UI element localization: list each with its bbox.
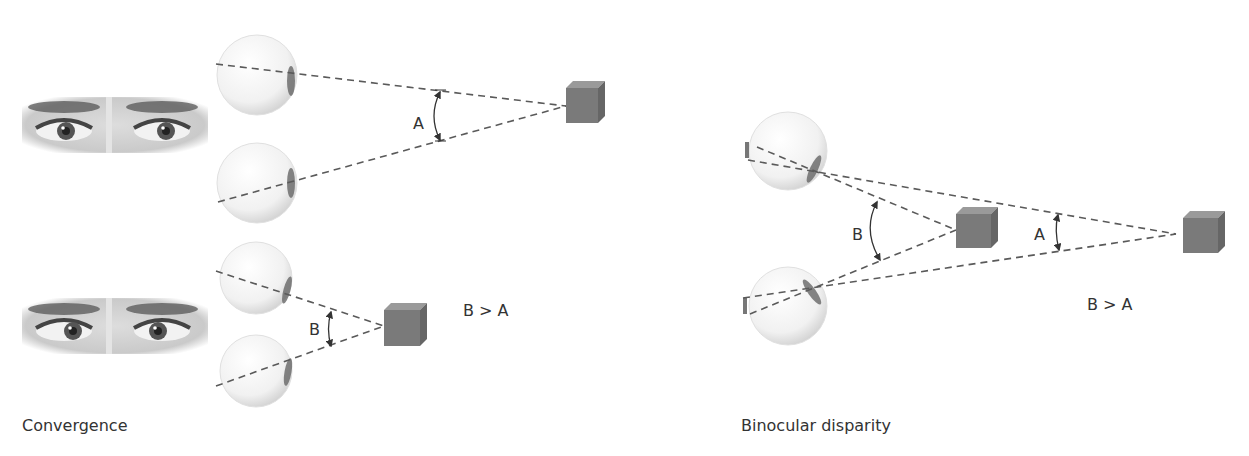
cube-near — [384, 303, 427, 346]
comparison-label-disparity: B > A — [1087, 295, 1133, 314]
face-eyes-photo-far — [22, 97, 208, 153]
angle-a-arc — [434, 92, 440, 140]
binocular-disparity-panel: B A B > A — [743, 112, 1225, 345]
cube-disparity-near — [956, 207, 998, 248]
disparity-angle-a-label: A — [1034, 225, 1045, 244]
eyeball-left-far — [217, 35, 297, 115]
eyeball-right-far — [217, 143, 297, 223]
angle-a-label: A — [413, 114, 424, 133]
eyeball-left-disparity — [745, 112, 827, 190]
comparison-label-convergence: B > A — [463, 301, 509, 320]
caption-binocular-disparity: Binocular disparity — [741, 416, 891, 435]
cube-far — [566, 81, 605, 123]
disparity-angle-b-arc — [870, 202, 880, 260]
angle-b-label: B — [309, 320, 320, 339]
caption-convergence: Convergence — [22, 416, 128, 435]
cube-disparity-far — [1183, 211, 1225, 253]
convergence-near-case: B B > A — [22, 242, 509, 407]
eyeball-right-disparity — [743, 267, 827, 345]
disparity-angle-b-label: B — [852, 225, 863, 244]
disparity-angle-a-arc — [1056, 215, 1059, 250]
angle-b-arc — [329, 312, 332, 346]
eyeball-left-near — [220, 242, 294, 314]
face-eyes-photo-near — [22, 298, 208, 354]
convergence-far-case: A — [22, 35, 605, 223]
depth-cues-diagram: A — [0, 0, 1249, 456]
eyeball-right-near — [220, 335, 294, 407]
